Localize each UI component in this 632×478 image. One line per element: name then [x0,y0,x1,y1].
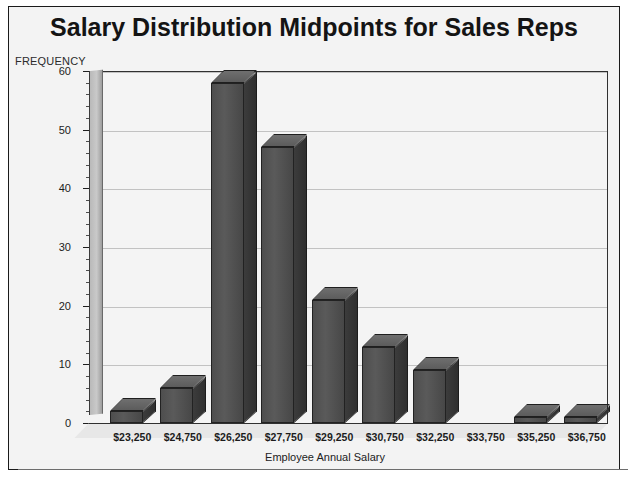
bar-side-face [345,288,358,423]
bar-front-face [413,370,446,423]
x-axis-tick-label: $24,750 [164,431,202,443]
bar[interactable] [413,357,446,423]
gridline [103,72,607,73]
bar[interactable] [261,134,294,423]
gridline [103,131,607,132]
y-axis-tick-label: 60 [59,65,71,77]
bar[interactable] [312,287,345,423]
x-axis-line [89,423,608,424]
chart-page: Salary Distribution Midpoints for Sales … [0,0,632,478]
bar[interactable] [514,404,547,423]
plot-canvas [103,71,608,423]
bar-side-face [395,335,408,423]
footer-divider [18,469,628,470]
plot-area [89,71,609,429]
y-axis-title: FREQUENCY [15,55,86,67]
bar[interactable] [160,375,193,423]
bar[interactable] [564,404,597,423]
y-axis-tick-label: 20 [59,300,71,312]
y-axis: 0102030405060 [75,71,89,429]
bar[interactable] [110,398,143,423]
x-axis-tick-label: $35,250 [517,431,555,443]
bar[interactable] [362,334,395,423]
x-axis-tick-label: $26,250 [214,431,252,443]
x-axis-title: Employee Annual Salary [9,451,632,463]
bar-front-face [110,411,143,423]
bar-front-face [261,147,294,423]
y-axis-tick-label: 50 [59,124,71,136]
chart-frame: Salary Distribution Midpoints for Sales … [8,6,620,470]
x-axis-tick-label: $32,250 [416,431,454,443]
gridline [103,189,607,190]
x-axis-tick-label: $36,750 [568,431,606,443]
x-axis-tick-label: $23,250 [113,431,151,443]
bar[interactable] [463,410,496,423]
bar[interactable] [211,70,244,423]
chart-title: Salary Distribution Midpoints for Sales … [9,13,619,42]
x-axis-tick-label: $33,750 [467,431,505,443]
bar-side-face [294,136,307,423]
x-axis-tick-label: $27,750 [265,431,303,443]
y-axis-tick-label: 0 [65,417,71,429]
bar-front-face [312,300,345,423]
bar-side-face [244,71,257,423]
gridline [103,248,607,249]
x-axis-tick-label: $29,250 [315,431,353,443]
x-axis-tick-labels: $23,250$24,750$26,250$27,750$29,250$30,7… [89,431,609,449]
y-axis-tick-label: 30 [59,241,71,253]
bar-front-face [160,388,193,423]
y-axis-tick-label: 10 [59,358,71,370]
plot-left-wall [89,70,103,415]
x-axis-tick-label: $30,750 [366,431,404,443]
y-axis-tick-label: 40 [59,182,71,194]
bar-front-face [362,347,395,423]
bar-front-face [211,83,244,423]
